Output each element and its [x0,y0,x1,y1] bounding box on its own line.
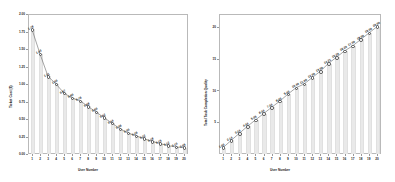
chart-panel-right: Total Task Completion Quality User Numbe… [197,0,394,182]
chart-panel-left: Ticket Cost ($) User Number 0.000.250.50… [0,0,197,182]
line-overlay-right [197,0,394,182]
figure-canvas: Ticket Cost ($) User Number 0.000.250.50… [0,0,395,182]
trend-line [32,29,184,147]
